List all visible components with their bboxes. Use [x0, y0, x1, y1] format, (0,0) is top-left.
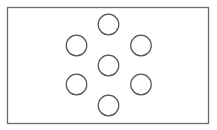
frame-rectangle: [8, 8, 209, 124]
circle-group: [66, 14, 151, 116]
circle-center: [98, 55, 119, 76]
circle-upper-left: [66, 35, 87, 56]
circle-lower-left: [66, 74, 87, 95]
circle-upper-right: [131, 35, 152, 56]
circle-bottom: [98, 95, 119, 116]
circle-top: [98, 14, 119, 35]
circle-lower-right: [131, 74, 152, 95]
diagram-canvas: [0, 0, 217, 130]
